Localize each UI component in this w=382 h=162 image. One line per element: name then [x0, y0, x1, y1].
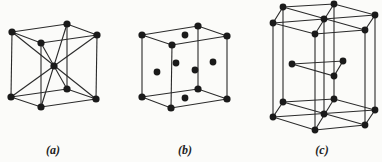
crystal-structures-figure: (a) (b) (c) [0, 0, 382, 162]
bcc-atoms [7, 20, 100, 110]
panel-label-b: (b) [178, 143, 192, 158]
lattice-diagrams [0, 0, 382, 162]
fcc-atoms [138, 22, 230, 111]
panel-label-a: (a) [46, 143, 60, 158]
panel-label-c: (c) [315, 143, 328, 158]
